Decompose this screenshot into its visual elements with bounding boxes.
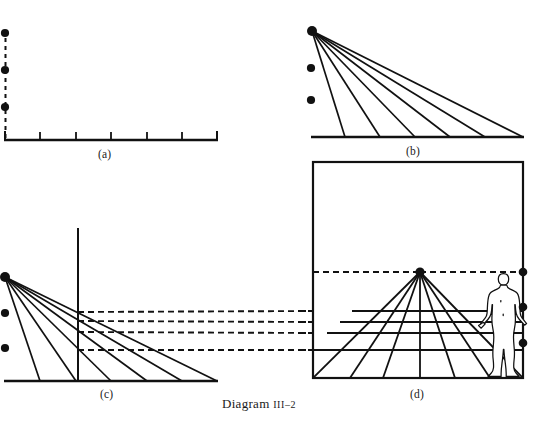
panel-label-d: (d)	[410, 388, 424, 400]
panel-a	[1, 29, 218, 140]
panel-d-dashed-entries	[300, 311, 313, 350]
panel-b	[307, 26, 524, 137]
figure-caption-numeral: III–2	[273, 399, 296, 410]
figure-caption: Diagram III–2	[222, 396, 296, 412]
panel-c-rays	[5, 277, 217, 381]
diagram-svg	[0, 0, 545, 428]
panel-c-dots	[1, 309, 9, 352]
figure-caption-text: Diagram	[222, 396, 270, 411]
panel-d-orthogonals	[313, 272, 523, 378]
panel-b-rays	[312, 31, 523, 137]
panel-d	[300, 162, 527, 378]
panel-label-a: (a)	[98, 148, 111, 160]
panel-b-dots	[307, 64, 315, 104]
transfer-line-3	[78, 332, 313, 333]
panel-d-vanishing-point	[415, 267, 424, 276]
transfer-line-1	[78, 311, 313, 312]
figure-root: (a) (b) (c) (d) Diagram III–2	[0, 0, 545, 428]
panel-c-vanishing-point	[0, 272, 10, 282]
transfer-line-2	[78, 321, 313, 322]
panel-c	[0, 228, 218, 381]
human-figure-icon	[479, 274, 527, 377]
panel-label-b: (b)	[406, 145, 420, 157]
panel-a-ticks	[5, 131, 217, 140]
panel-b-vanishing-point	[307, 26, 317, 36]
panel-label-c: (c)	[100, 388, 113, 400]
